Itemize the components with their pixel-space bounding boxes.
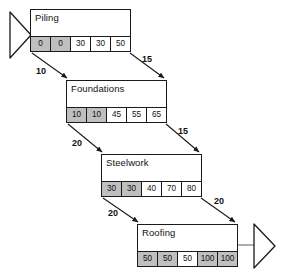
node-title-roofing: Roofing	[142, 227, 175, 238]
node-cell: 50	[178, 252, 198, 266]
node-cell: 30	[122, 182, 142, 196]
node-title-area: Piling	[31, 10, 130, 36]
edge-label-piling-foundations-left: 10	[36, 66, 46, 76]
node-cell: 50	[138, 252, 158, 266]
node-cell: 70	[162, 182, 182, 196]
node-cell: 30	[71, 37, 91, 51]
node-cell: 10	[67, 108, 87, 122]
node-cell: 65	[147, 108, 166, 122]
node-cell: 100	[218, 252, 237, 266]
node-cell-row-roofing: 50 50 50 100 100	[138, 251, 237, 266]
edge-label-steelwork-roofing-left: 20	[108, 208, 118, 218]
node-title-piling: Piling	[35, 12, 59, 23]
node-cell-row-foundations: 10 10 45 55 65	[67, 107, 166, 122]
node-cell-row-steelwork: 30 30 40 70 80	[102, 181, 201, 196]
node-title-area: Roofing	[138, 225, 237, 251]
node-cell: 80	[182, 182, 201, 196]
node-cell: 50	[158, 252, 178, 266]
node-cell: 55	[127, 108, 147, 122]
node-title-area: Steelwork	[102, 155, 201, 181]
activity-node-piling[interactable]: Piling 0 0 30 30 50	[30, 9, 131, 52]
node-cell-row-piling: 0 0 30 30 50	[31, 36, 130, 51]
node-cell: 45	[107, 108, 127, 122]
node-title-steelwork: Steelwork	[106, 157, 149, 168]
node-cell: 100	[198, 252, 218, 266]
node-cell: 50	[111, 37, 130, 51]
activity-node-foundations[interactable]: Foundations 10 10 45 55 65	[66, 80, 167, 123]
node-cell: 0	[31, 37, 51, 51]
node-title-foundations: Foundations	[71, 83, 124, 94]
node-cell: 0	[51, 37, 71, 51]
activity-node-steelwork[interactable]: Steelwork 30 30 40 70 80	[101, 154, 202, 197]
edge-label-foundations-steelwork-left: 20	[72, 138, 82, 148]
start-marker-icon	[10, 12, 31, 58]
edge-label-steelwork-roofing-right: 20	[214, 196, 224, 206]
edge-label-piling-foundations-right: 15	[142, 54, 152, 64]
precedence-network-diagram: Piling 0 0 30 30 50 Foundations 10 10 45…	[0, 0, 281, 277]
activity-node-roofing[interactable]: Roofing 50 50 50 100 100	[137, 224, 238, 267]
node-cell: 40	[142, 182, 162, 196]
node-cell: 30	[102, 182, 122, 196]
edge-label-foundations-steelwork-right: 15	[178, 126, 188, 136]
node-title-area: Foundations	[67, 81, 166, 107]
end-marker-icon	[254, 224, 275, 268]
node-cell: 30	[91, 37, 111, 51]
node-cell: 10	[87, 108, 107, 122]
